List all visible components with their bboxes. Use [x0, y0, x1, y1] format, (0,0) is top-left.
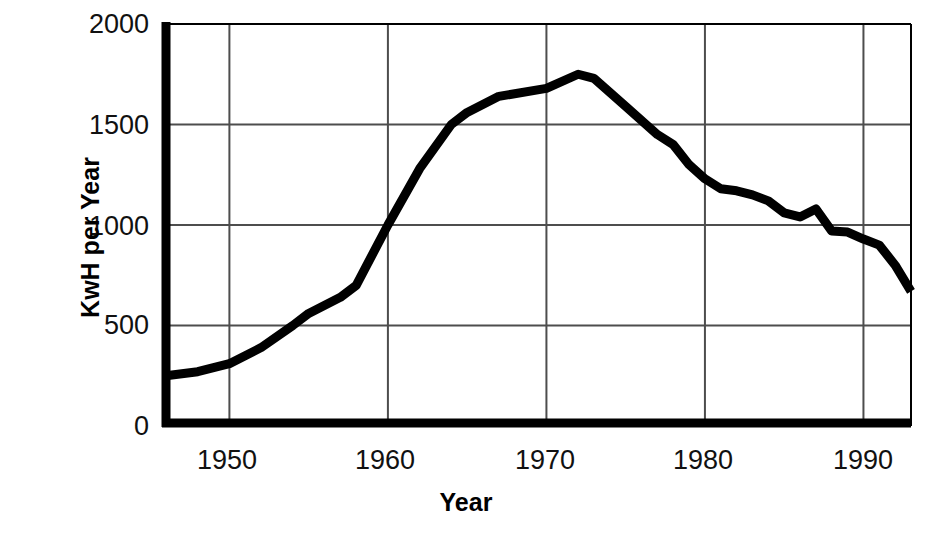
x-tick-label-1970: 1970 — [515, 447, 575, 474]
y-tick-label-500: 500 — [104, 312, 149, 339]
x-tick-label-1980: 1980 — [673, 447, 733, 474]
y-tick-label-0: 0 — [134, 413, 149, 440]
chart-container: 2000 1500 1000 500 0 1950 1960 1970 1980… — [0, 0, 932, 553]
x-tick-label-1990: 1990 — [833, 447, 893, 474]
x-tick-label-1950: 1950 — [197, 447, 257, 474]
y-tick-label-2000: 2000 — [89, 11, 149, 38]
line-chart-plot — [0, 0, 932, 553]
horizontal-gridlines — [166, 24, 911, 326]
y-axis-title: KwH per Year — [76, 88, 105, 388]
x-tick-label-1960: 1960 — [355, 447, 415, 474]
x-axis-title: Year — [0, 488, 932, 517]
